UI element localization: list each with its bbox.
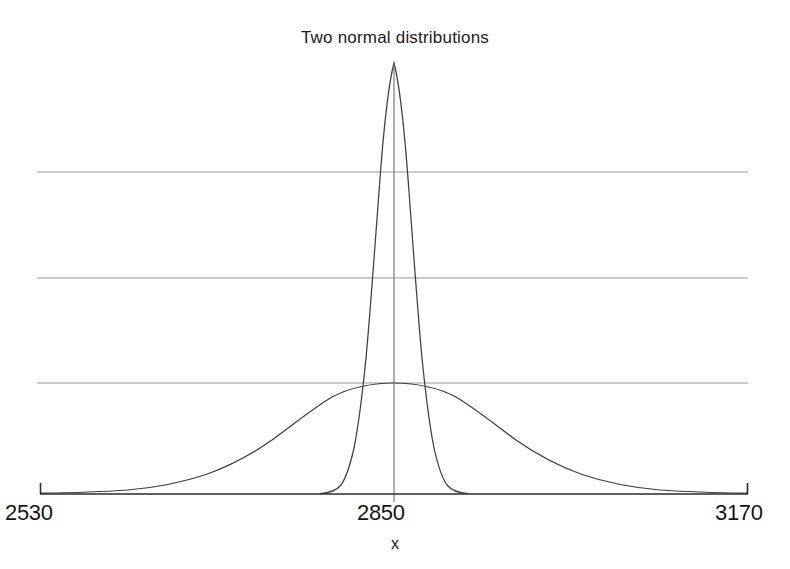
chart-page: Two normal distributions 2530 2850 3170 … [0, 0, 790, 569]
x-axis-title: x [0, 535, 790, 553]
x-axis-tick-label-mid: 2850 [357, 500, 405, 526]
plot-area [0, 0, 790, 569]
x-axis-tick-label-max: 3170 [715, 500, 763, 526]
gridlines [37, 172, 748, 383]
x-axis-tick-label-min: 2530 [5, 500, 53, 526]
